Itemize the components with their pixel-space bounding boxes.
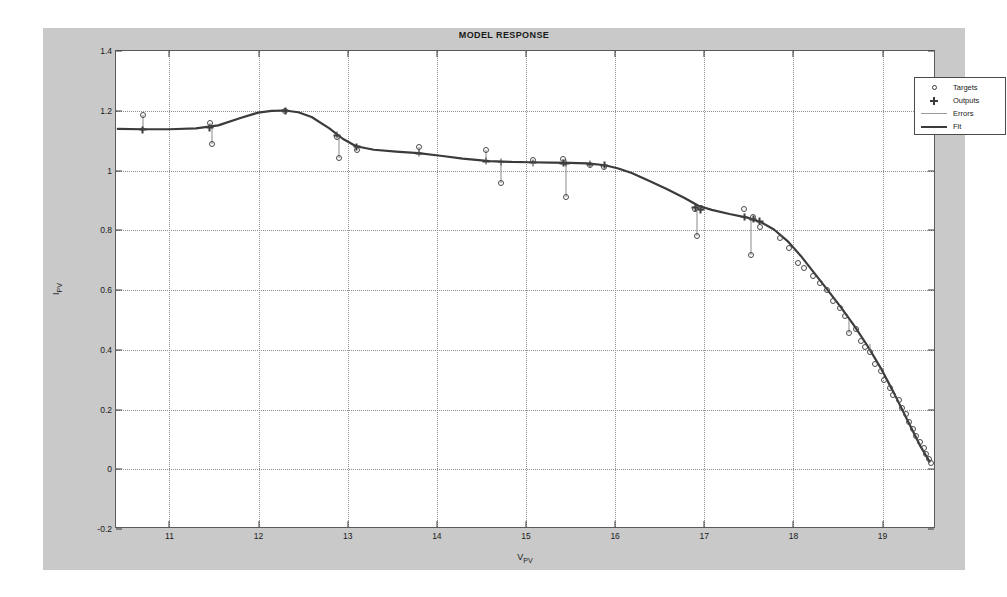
x-tick-label: 14 — [432, 531, 441, 541]
target-marker — [530, 157, 536, 163]
x-axis-label-sub: PV — [523, 557, 532, 564]
target-marker — [801, 265, 807, 271]
target-marker — [837, 305, 843, 311]
output-marker — [741, 214, 748, 221]
legend-item-targets: Targets — [919, 81, 1001, 94]
target-marker — [842, 313, 848, 319]
y-tick-label: 0 — [107, 464, 112, 474]
x-tick-label: 13 — [343, 531, 352, 541]
y-axis-label-base: I — [51, 292, 61, 295]
target-marker — [810, 273, 816, 279]
target-marker — [846, 330, 852, 336]
x-tick-label: 15 — [521, 531, 530, 541]
target-marker — [903, 411, 909, 417]
target-marker — [853, 326, 859, 332]
y-tick-label: 0.4 — [100, 345, 112, 355]
legend-label-outputs: Outputs — [949, 96, 979, 105]
y-axis-label: IPV — [51, 283, 63, 295]
target-marker — [587, 162, 593, 168]
legend-label-fit: Fit — [949, 122, 961, 131]
target-marker — [878, 368, 884, 374]
target-marker — [777, 235, 783, 241]
x-tick-label: 19 — [878, 531, 887, 541]
target-marker — [757, 224, 763, 230]
y-tick-label: -0.2 — [97, 524, 112, 534]
error-bar — [566, 163, 567, 197]
target-marker — [786, 245, 792, 251]
target-marker — [928, 460, 934, 466]
target-marker — [140, 112, 146, 118]
target-marker — [858, 338, 864, 344]
error-bar — [750, 218, 751, 254]
y-tick-label: 1.2 — [100, 106, 112, 116]
chart-title: MODEL RESPONSE — [43, 30, 965, 40]
target-marker — [698, 205, 704, 211]
screenshot-page: MODEL RESPONSE -0.200.20.40.60.811.21.41… — [0, 0, 1007, 597]
target-marker — [282, 108, 288, 114]
y-tick-label: 0.6 — [100, 285, 112, 295]
plus-marker-icon — [919, 97, 949, 105]
target-marker — [694, 233, 700, 239]
output-marker — [498, 159, 505, 166]
plot-axes: -0.200.20.40.60.811.21.41112131415161718… — [115, 50, 935, 528]
y-tick-mark — [116, 529, 122, 530]
target-marker — [498, 180, 504, 186]
legend-label-targets: Targets — [949, 83, 978, 92]
target-marker — [209, 141, 215, 147]
matlab-figure-canvas: MODEL RESPONSE -0.200.20.40.60.811.21.41… — [43, 28, 965, 570]
y-tick-label: 1.4 — [100, 46, 112, 56]
output-marker — [416, 150, 423, 157]
legend-item-outputs: Outputs — [919, 94, 1001, 107]
x-tick-label: 18 — [789, 531, 798, 541]
y-tick-label: 1 — [107, 166, 112, 176]
target-marker — [910, 426, 916, 432]
target-marker — [334, 134, 340, 140]
target-marker — [887, 385, 893, 391]
target-marker — [830, 298, 836, 304]
target-marker — [896, 397, 902, 403]
legend-item-fit: Fit — [919, 120, 1001, 133]
x-tick-label: 16 — [610, 531, 619, 541]
output-marker — [139, 126, 146, 133]
y-tick-label: 0.2 — [100, 405, 112, 415]
target-marker — [354, 147, 360, 153]
y-tick-label: 0.8 — [100, 225, 112, 235]
x-tick-label: 17 — [700, 531, 709, 541]
target-marker — [890, 392, 896, 398]
y-axis-label-sub: PV — [56, 283, 63, 292]
output-marker — [482, 158, 489, 165]
chart-legend: Targets Outputs Errors Fit — [914, 77, 1006, 135]
y-tick-mark — [928, 529, 934, 530]
target-marker — [817, 280, 823, 286]
target-marker — [748, 252, 754, 258]
target-marker — [824, 287, 830, 293]
target-marker — [906, 419, 912, 425]
target-marker — [483, 147, 489, 153]
thin-line-icon — [919, 113, 949, 114]
x-axis-label: VPV — [115, 552, 935, 564]
target-marker — [872, 361, 878, 367]
target-marker — [560, 156, 566, 162]
target-marker — [795, 260, 801, 266]
target-marker — [867, 349, 873, 355]
thick-line-icon — [919, 126, 949, 128]
fit-curve — [116, 51, 934, 527]
target-marker — [563, 194, 569, 200]
target-marker — [881, 377, 887, 383]
target-marker — [750, 214, 756, 220]
x-tick-label: 11 — [165, 531, 174, 541]
x-tick-label: 12 — [254, 531, 263, 541]
target-marker — [336, 155, 342, 161]
legend-label-errors: Errors — [949, 109, 973, 118]
target-marker — [416, 144, 422, 150]
target-marker — [601, 164, 607, 170]
circle-marker-icon — [919, 85, 949, 90]
target-marker — [207, 120, 213, 126]
target-marker — [741, 206, 747, 212]
legend-item-errors: Errors — [919, 107, 1001, 120]
